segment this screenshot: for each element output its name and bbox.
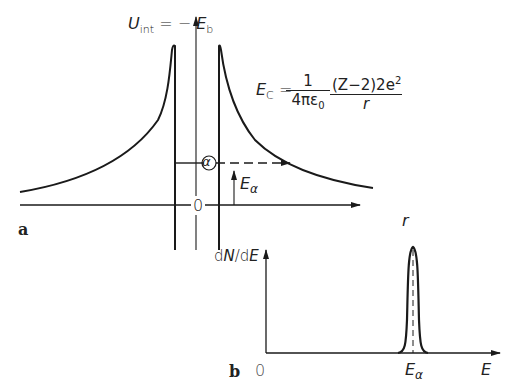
panel-b-label: b: [229, 362, 240, 381]
origin-label-a: 0: [191, 196, 205, 215]
origin-label-b: 0: [255, 361, 265, 380]
r-axis-label: r: [402, 211, 409, 230]
alpha-particle-label: α: [202, 154, 211, 169]
u-axis-label: Uint = − Eb: [128, 14, 213, 36]
panel-a-label: a: [18, 220, 28, 239]
coulomb-formula-frac1: 1 4πε0: [286, 72, 330, 115]
e-alpha-label-a: Eα: [240, 174, 258, 196]
e-axis-label: E: [481, 360, 491, 379]
left-barrier-curve: [20, 46, 175, 251]
coulomb-formula-frac2: (Z−2)2e2 r: [330, 72, 402, 113]
e-alpha-label-b: Eα: [405, 360, 423, 382]
dnde-axis-label: dN/dE: [214, 247, 259, 265]
